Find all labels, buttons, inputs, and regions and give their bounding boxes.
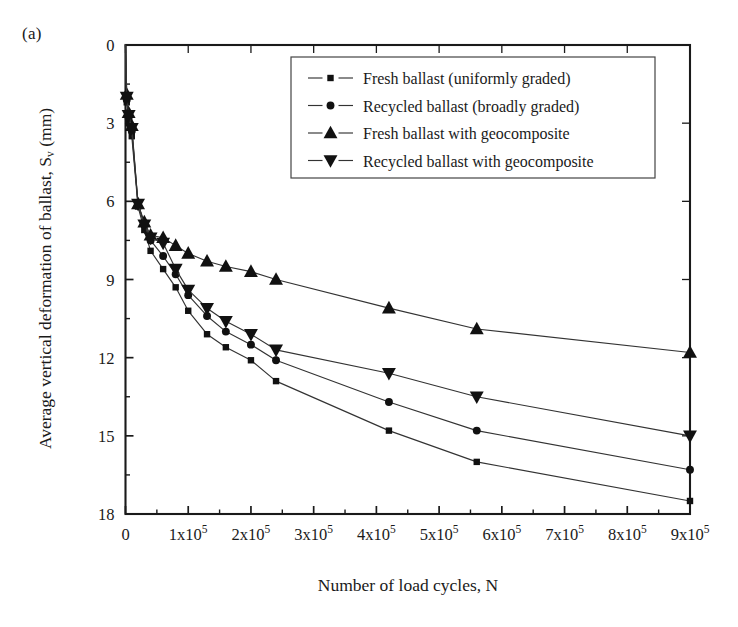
x-tick-label: 6x105 xyxy=(482,523,521,544)
data-point xyxy=(181,246,195,259)
data-point xyxy=(386,427,392,433)
legend-marker-circle xyxy=(327,102,335,110)
data-point xyxy=(160,266,166,272)
y-tick-label: 15 xyxy=(98,427,115,446)
data-point xyxy=(223,344,229,350)
data-point xyxy=(172,284,178,290)
data-point xyxy=(385,398,393,406)
data-point xyxy=(474,459,480,465)
data-point xyxy=(248,357,254,363)
data-point xyxy=(686,466,694,474)
legend-marker-square xyxy=(327,75,333,81)
data-point xyxy=(200,254,214,267)
x-tick-label: 5x105 xyxy=(420,523,459,544)
data-point xyxy=(473,427,481,435)
x-tick-label: 8x105 xyxy=(608,523,647,544)
y-tick-label: 12 xyxy=(98,349,115,368)
x-tick-label: 3x105 xyxy=(294,523,333,544)
y-tick-label: 9 xyxy=(106,271,114,290)
data-point xyxy=(222,328,230,336)
data-point xyxy=(169,238,183,251)
figure-panel-a: (a) Average vertical deformation of ball… xyxy=(0,0,738,627)
y-tick-label: 18 xyxy=(98,505,115,524)
x-tick-label: 1x105 xyxy=(169,523,208,544)
data-point xyxy=(147,248,153,254)
data-point xyxy=(244,329,258,342)
y-tick-label: 3 xyxy=(106,114,114,133)
data-point xyxy=(185,308,191,314)
data-point xyxy=(272,356,280,364)
data-point xyxy=(200,303,214,316)
y-tick-label: 6 xyxy=(106,192,114,211)
legend-box: Fresh ballast (uniformly graded)Recycled… xyxy=(291,57,655,178)
x-tick-label: 9x105 xyxy=(671,523,710,544)
legend-label: Fresh ballast (uniformly graded) xyxy=(363,70,571,88)
data-point xyxy=(131,199,145,212)
data-point xyxy=(219,316,233,329)
x-tick-label: 7x105 xyxy=(545,523,584,544)
data-point xyxy=(156,238,170,251)
y-tick-label: 0 xyxy=(106,36,114,55)
x-tick-label: 2x105 xyxy=(232,523,271,544)
legend-label: Recycled ballast with geocomposite xyxy=(363,153,594,171)
legend-label: Recycled ballast (broadly graded) xyxy=(363,98,579,116)
y-axis-tick-labels: 0369121518 xyxy=(98,36,115,524)
data-point xyxy=(683,431,697,444)
data-point xyxy=(273,378,279,384)
data-point xyxy=(159,252,167,260)
plot-area: 01x1052x1053x1054x1055x1056x1057x1058x10… xyxy=(0,0,738,627)
data-point xyxy=(247,341,255,349)
x-tick-label: 0 xyxy=(121,525,129,544)
data-point xyxy=(169,264,183,277)
x-tick-label: 4x105 xyxy=(357,523,396,544)
legend-label: Fresh ballast with geocomposite xyxy=(363,125,570,143)
x-axis-tick-labels: 01x1052x1053x1054x1055x1056x1057x1058x10… xyxy=(121,523,709,544)
data-point xyxy=(687,498,693,504)
data-point xyxy=(204,331,210,337)
